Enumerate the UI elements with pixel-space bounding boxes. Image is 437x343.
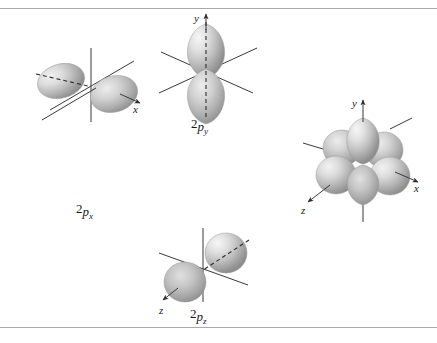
diagram-2pz: z 2pz bbox=[158, 228, 249, 326]
combined-y-axis-label: y bbox=[351, 97, 357, 109]
diagram-2px: x 2px bbox=[33, 48, 142, 221]
combined-z-axis-label: z bbox=[300, 204, 306, 216]
combined-x-axis-label: x bbox=[413, 182, 419, 194]
2px-x-axis-label: x bbox=[132, 103, 138, 115]
diagram-2py: y 2py bbox=[159, 12, 257, 136]
combined-z-axis-arrow bbox=[308, 185, 330, 202]
2pz-z-axis-label: z bbox=[158, 304, 164, 316]
2px-orbital-label: 2px bbox=[76, 201, 93, 221]
2py-y-axis-label: y bbox=[193, 12, 199, 24]
2px-label-sub: x bbox=[88, 211, 93, 221]
2py-label-sub: y bbox=[203, 126, 208, 136]
2pz-lobe-near bbox=[164, 262, 206, 302]
diagram-combined-2p: y x z bbox=[300, 97, 419, 222]
combined-z-axis-upper bbox=[390, 118, 412, 129]
2pz-lobe-far bbox=[205, 233, 247, 273]
orbital-figure-canvas: x 2px y 2py z bbox=[0, 0, 437, 343]
combined-lobe-bottom bbox=[347, 165, 379, 205]
2pz-orbital-label: 2pz bbox=[190, 306, 207, 326]
2pz-label-sub: z bbox=[202, 316, 207, 326]
